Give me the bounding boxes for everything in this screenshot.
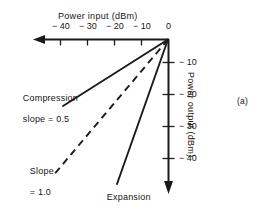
annotation-expansion-line1: Expansion <box>107 192 151 202</box>
y-axis-title: Power output (dBm) <box>186 72 197 157</box>
series-compression-line <box>63 40 168 107</box>
x-tick-label--10: − 10 <box>127 21 157 31</box>
x-axis-arrowhead <box>33 35 45 44</box>
x-tick-label-0: 0 <box>156 21 181 31</box>
figure-panel: Power input (dBm) − 40 − 30 − 20 − 10 0 … <box>0 0 264 212</box>
annotation-expansion: Expansion slope = 2.0 <box>96 181 153 212</box>
panel-label: (a) <box>237 96 248 107</box>
series-expansion-line <box>117 40 168 185</box>
y-tick-label--10: − 10 <box>179 57 197 67</box>
annotation-slope-one-line1: Slope <box>30 166 54 176</box>
x-tick-label--20: − 20 <box>100 21 130 31</box>
annotation-compression: Compression slope = 0.5 <box>12 82 78 135</box>
annotation-compression-line2: slope = 0.5 <box>23 114 69 124</box>
annotation-slope-one: Slope = 1.0 <box>19 155 54 208</box>
y-axis-arrowhead <box>164 181 173 194</box>
x-tick-label--40: − 40 <box>46 21 76 31</box>
y-axis <box>163 39 175 194</box>
x-axis <box>33 35 168 46</box>
annotation-slope-one-line2: = 1.0 <box>30 187 51 197</box>
x-axis-title: Power input (dBm) <box>58 11 138 22</box>
annotation-compression-line1: Compression <box>23 93 78 103</box>
x-tick-label--30: − 30 <box>73 21 103 31</box>
